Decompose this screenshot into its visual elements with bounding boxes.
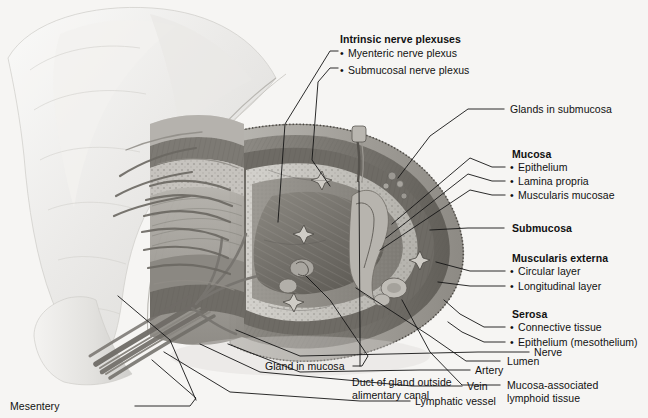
label-mucosa-header: Mucosa xyxy=(512,148,551,161)
bullet-glyph: • xyxy=(510,175,518,188)
label-longitudinal-layer: •Longitudinal layer xyxy=(510,280,601,293)
label-myenteric-nerve-plexus-text: Myenteric nerve plexus xyxy=(348,47,457,59)
label-duct-of-gland-line1: Duct of gland outside xyxy=(352,376,452,389)
label-muscularis-externa-header: Muscularis externa xyxy=(512,252,608,265)
bullet-glyph: • xyxy=(340,47,348,60)
label-submucosa-header: Submucosa xyxy=(512,222,572,235)
label-mucosa-associated-lymphoid-tissue-line2: lymphoid tissue xyxy=(507,392,580,405)
bullet-glyph: • xyxy=(510,321,518,334)
bullet-glyph: • xyxy=(510,280,518,293)
label-connective-tissue-text: Connective tissue xyxy=(518,321,602,333)
label-myenteric-nerve-plexus: •Myenteric nerve plexus xyxy=(340,47,457,60)
label-gland-in-mucosa: Gland in mucosa xyxy=(265,360,345,373)
label-submucosal-nerve-plexus-text: Submucosal nerve plexus xyxy=(348,64,469,76)
bullet-glyph: • xyxy=(340,64,348,77)
label-lamina-propria-text: Lamina propria xyxy=(518,175,589,187)
bullet-glyph: • xyxy=(510,336,518,349)
bullet-glyph: • xyxy=(510,189,518,202)
label-intrinsic-nerve-plexuses-header: Intrinsic nerve plexuses xyxy=(340,33,461,46)
label-circular-layer-text: Circular layer xyxy=(518,265,581,277)
label-mucosa-associated-lymphoid-tissue-line1: Mucosa-associated xyxy=(507,379,598,392)
label-epithelium: •Epithelium xyxy=(510,161,568,174)
bullet-glyph: • xyxy=(510,265,518,278)
label-lymphatic-vessel: Lymphatic vessel xyxy=(415,395,496,408)
label-circular-layer: •Circular layer xyxy=(510,265,581,278)
label-longitudinal-layer-text: Longitudinal layer xyxy=(518,280,601,292)
label-vein: Vein xyxy=(467,380,488,393)
label-connective-tissue: •Connective tissue xyxy=(510,321,602,334)
label-epithelium-mesothelium: •Epithelium (mesothelium) xyxy=(510,336,638,349)
anatomy-figure: Intrinsic nerve plexuses •Myenteric nerv… xyxy=(0,0,648,418)
label-artery: Artery xyxy=(475,364,503,377)
label-serosa-header: Serosa xyxy=(512,308,547,321)
label-epithelium-text: Epithelium xyxy=(518,161,568,173)
label-glands-in-submucosa: Glands in submucosa xyxy=(510,103,612,116)
label-muscularis-mucosae-text: Muscularis mucosae xyxy=(518,189,615,201)
bullet-glyph: • xyxy=(510,161,518,174)
label-mesentery: Mesentery xyxy=(10,400,59,413)
label-nerve: Nerve xyxy=(534,346,562,359)
label-submucosal-nerve-plexus: •Submucosal nerve plexus xyxy=(340,64,469,77)
label-lamina-propria: •Lamina propria xyxy=(510,175,589,188)
label-muscularis-mucosae: •Muscularis mucosae xyxy=(510,189,615,202)
